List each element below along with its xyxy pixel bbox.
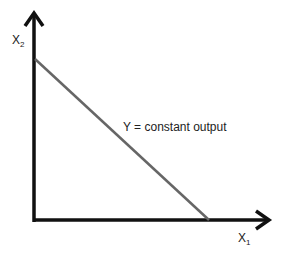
y-axis-label: X2 xyxy=(12,33,24,49)
constant-output-label: Y = constant output xyxy=(123,120,227,134)
x-axis-label: X1 xyxy=(238,231,250,247)
constant-output-line xyxy=(35,59,209,220)
